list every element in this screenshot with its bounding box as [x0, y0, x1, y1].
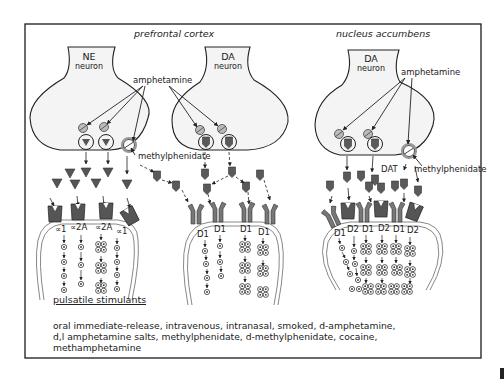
receptor-label: D1	[393, 224, 405, 234]
ne-neuron-sublabel: neuron	[75, 62, 103, 71]
receptor-label: ∝2A	[70, 222, 87, 232]
receptor-label: D1	[258, 227, 270, 237]
amphetamine-label-pfc: amphetamine	[133, 75, 192, 85]
receptor-label: ∝2A	[95, 222, 112, 232]
receptor-label: D1	[214, 224, 226, 234]
da-neuron-sublabel-nac: neuron	[357, 64, 385, 73]
receptor-label: D1	[362, 224, 374, 234]
da-neuron-label-pfc: DA	[221, 51, 235, 62]
methylphenidate-label-nac: methylphenidate	[414, 164, 487, 174]
da-neuron-label-nac: DA	[364, 53, 378, 64]
methylphenidate-label-pfc: methylphenidate	[138, 151, 211, 161]
stimulant-list: oral immediate-release, intravenous, int…	[53, 320, 473, 353]
region-title-prefrontal: prefrontal cortex	[133, 28, 215, 39]
stimulant-list-line: oral immediate-release, intravenous, int…	[53, 320, 473, 331]
dat-label: DAT	[381, 164, 399, 174]
receptor-label: D1	[197, 229, 209, 239]
region-title-accumbens: nucleus accumbens	[336, 28, 430, 39]
section-title: pulsatile stimulants	[53, 294, 146, 305]
receptor-label: ∝1	[55, 224, 66, 234]
receptor-label: D1	[240, 224, 252, 234]
receptor-label: D2	[378, 223, 390, 233]
stimulant-list-line: d,l amphetamine salts, methylphenidate, …	[53, 331, 473, 342]
receptor-label: D1	[334, 228, 346, 238]
edge-marker	[500, 368, 504, 379]
receptor-label: D2	[407, 225, 419, 235]
amphetamine-label-nac: amphetamine	[401, 67, 460, 77]
da-neuron-sublabel-pfc: neuron	[214, 62, 242, 71]
receptor-label: ∝1	[116, 226, 127, 236]
receptor-label: D2	[347, 224, 359, 234]
stimulant-list-line: methamphetamine	[53, 342, 473, 353]
ne-neuron-label: NE	[82, 51, 95, 62]
